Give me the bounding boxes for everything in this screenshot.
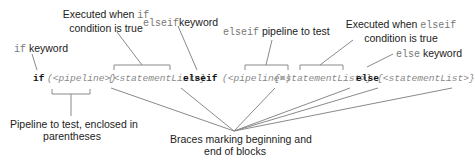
elseif-pipeline-code: elseif [223,27,259,38]
elseif-statement-bracket [300,65,343,70]
elseif-pipeline-bracket [245,65,288,70]
if-keyword-label: if keyword [14,42,68,56]
if-keyword-text: keyword [29,42,68,54]
code-pipeline-1: (<pipeline>) [47,73,116,84]
elseif-code: elseif [143,18,179,29]
elseif-true-line1: Executed when elseif [334,18,468,32]
code-elseif: elseif [183,73,218,84]
else-keyword-text: keyword [423,47,462,59]
elseif-keyword-label: elseifkeyword [143,16,218,30]
elseif-pipeline-text: pipeline to test [262,25,330,37]
elseif-keyword-pointer [178,26,197,70]
elseif-true-line2: condition is true [334,32,468,44]
elseif-pipeline-label: elseif pipeline to test [223,25,330,39]
if-statement-bracket [114,65,170,70]
else-code: else [396,49,420,60]
braces-pointer [234,88,350,131]
pipeline-line1: Pipeline to test, enclosed in [10,118,134,130]
else-keyword-pointer [367,54,393,67]
braces-pointer [181,88,234,131]
braces-label: Braces marking beginning and end of bloc… [170,133,300,157]
braces-line1: Braces marking beginning and [170,133,300,145]
if-code: if [14,44,26,55]
elseif-true-label: Executed when elseif condition is true [334,18,468,44]
if-keyword-pointer [32,54,37,70]
code-if: if [33,73,45,84]
code-line: if (<pipeline>) {<statementList>} elseif… [0,73,469,87]
elseif-keyword-text: keyword [179,16,218,28]
if-true-pointer [117,32,142,65]
if-pipeline-bracket [52,89,90,94]
else-keyword-label: else keyword [396,47,462,61]
braces-pointer [234,88,378,131]
code-else: else [356,73,379,84]
code-statement-list-3: {<statementList>} [377,73,475,84]
braces-line2: end of blocks [170,145,300,157]
pipeline-label: Pipeline to test, enclosed in parenthese… [10,118,134,142]
pipeline-line2: parentheses [10,130,134,142]
braces-pointer [234,88,452,131]
elseif-pipeline-pointer [266,40,272,65]
